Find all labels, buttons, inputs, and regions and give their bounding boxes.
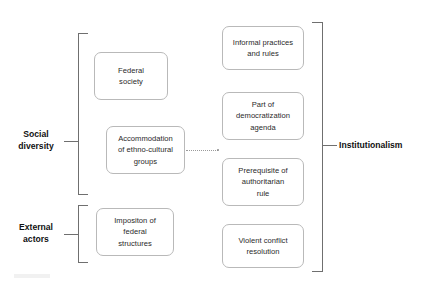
bracket-external-actors	[78, 205, 88, 263]
bracket-stem-external-actors	[64, 234, 79, 235]
node-federal-society[interactable]: Federal society	[94, 52, 168, 100]
node-imposition-federal-structures-label: Impositon of federal structures	[100, 215, 170, 249]
node-authoritarian-rule[interactable]: Prerequisite of authoritarian rule	[222, 158, 304, 206]
category-label-external-actors: External actors	[8, 221, 64, 246]
dotted-connector-accommodation	[186, 150, 218, 151]
bracket-stem-institutionalism	[322, 145, 337, 146]
outcome-label-institutionalism: Institutionalism	[339, 139, 403, 151]
node-violent-conflict-resolution-label: Violent conflict resolution	[226, 235, 300, 258]
node-authoritarian-rule-label: Prerequisite of authoritarian rule	[226, 165, 300, 199]
dotted-connector-endpoint	[217, 149, 219, 151]
node-accommodation-label: Accommodation of ethno-cultural groups	[110, 133, 181, 167]
node-imposition-federal-structures[interactable]: Impositon of federal structures	[96, 208, 174, 256]
category-label-social-diversity: Social diversity	[8, 128, 64, 153]
node-informal-practices[interactable]: Informal practices and rules	[222, 26, 304, 70]
node-accommodation[interactable]: Accommodation of ethno-cultural groups	[106, 126, 185, 174]
node-informal-practices-label: Informal practices and rules	[226, 37, 300, 60]
bracket-institutionalism	[312, 22, 323, 272]
node-democratization-agenda-label: Part of democratization agenda	[226, 99, 300, 133]
diagram-canvas: Social diversity External actors Federal…	[0, 0, 424, 286]
page-artifact	[14, 274, 50, 278]
node-democratization-agenda[interactable]: Part of democratization agenda	[222, 92, 304, 140]
node-federal-society-label: Federal society	[98, 65, 164, 88]
bracket-social-diversity	[78, 33, 88, 195]
bracket-stem-social-diversity	[64, 141, 79, 142]
node-violent-conflict-resolution[interactable]: Violent conflict resolution	[222, 224, 304, 268]
